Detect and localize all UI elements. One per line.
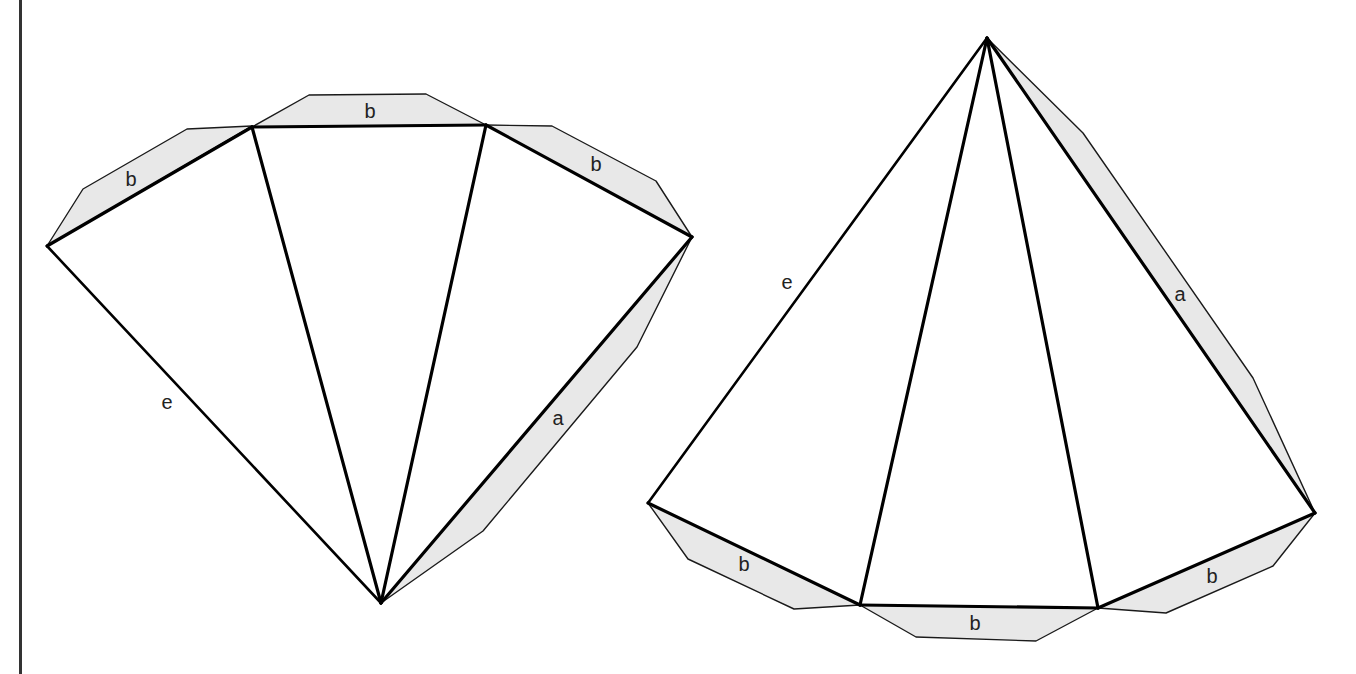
right-net: a b b b e bbox=[648, 38, 1315, 641]
right-net-label-b-right: b bbox=[1206, 565, 1217, 587]
left-net-label-a: a bbox=[552, 407, 564, 429]
diagram-canvas: b b b a e a b b b e bbox=[0, 0, 1356, 674]
left-net: b b b a e bbox=[47, 94, 692, 603]
left-net-label-b-right: b bbox=[590, 153, 601, 175]
left-net-fold-1 bbox=[252, 127, 381, 603]
left-net-label-e: e bbox=[161, 391, 172, 413]
left-net-edge-a bbox=[381, 237, 692, 603]
left-net-edge-b1 bbox=[47, 127, 252, 246]
right-net-label-e: e bbox=[781, 271, 792, 293]
right-net-label-a: a bbox=[1174, 283, 1186, 305]
right-net-label-b-left: b bbox=[738, 553, 749, 575]
left-net-label-b-top: b bbox=[364, 100, 375, 122]
left-net-edge-e bbox=[47, 246, 381, 603]
right-net-edge-a bbox=[987, 38, 1315, 513]
left-net-label-b-left: b bbox=[125, 168, 136, 190]
right-net-fold-2 bbox=[987, 38, 1098, 608]
right-net-label-b-mid: b bbox=[969, 612, 980, 634]
nets-svg: b b b a e a b b b e bbox=[0, 0, 1356, 674]
left-net-edge-b3 bbox=[486, 125, 692, 237]
left-net-edge-b2 bbox=[252, 125, 486, 127]
